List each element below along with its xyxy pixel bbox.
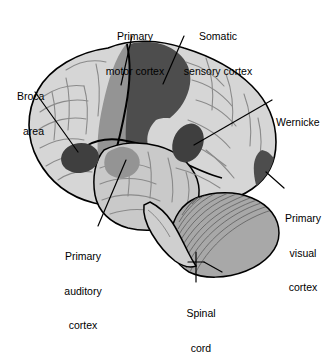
label-line: visual [278,248,328,260]
label-line: Primary [278,213,328,225]
label-line: cord [180,343,222,355]
label-primary-auditory-cortex: Primary auditory cortex [52,228,114,343]
label-line: Primary [52,251,114,263]
label-line: auditory [52,286,114,298]
label-primary-motor-cortex: Primary motor cortex [98,8,172,89]
label-line: Primary [98,31,172,43]
label-primary-visual-cortex: Primary visual cortex [278,190,328,305]
label-line: motor cortex [98,66,172,78]
label-line: cortex [278,282,328,294]
label-line: cortex [52,320,114,332]
label-spinal-cord: Spinal cord [180,285,222,356]
label-somatic-sensory-cortex: Somatic sensory cortex [176,8,260,89]
leader-primary-visual-cortex [266,172,284,188]
label-line: Spinal [180,308,222,320]
label-line: area [17,126,65,138]
label-line: Broca [17,91,65,103]
label-line: sensory cortex [176,66,260,78]
label-broca-area: Broca area [17,68,65,149]
label-wernicke: Wernicke [276,94,330,140]
label-line: Wernicke [276,117,330,129]
label-line: Somatic [176,31,260,43]
